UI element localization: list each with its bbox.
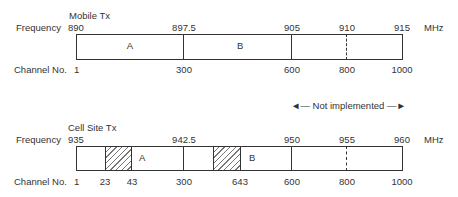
chan-tick: 800 xyxy=(339,64,355,75)
chan-tick: 600 xyxy=(284,176,300,187)
freq-tick: 905 xyxy=(284,22,300,33)
chan-tick: 1000 xyxy=(391,64,412,75)
chan-tick: 800 xyxy=(339,176,355,187)
chan-tick: 1000 xyxy=(391,176,412,187)
freq-tick: 942.5 xyxy=(172,134,196,145)
chan-tick: 600 xyxy=(284,64,300,75)
freq-tick: 950 xyxy=(284,134,300,145)
unit-label: MHz xyxy=(424,22,444,33)
divider xyxy=(291,34,292,60)
hatched-region-b xyxy=(213,147,241,170)
chan-tick: 43 xyxy=(127,176,138,187)
chan-tick: 1 xyxy=(74,176,79,187)
band-b-label: B xyxy=(249,152,255,163)
band-a-label: A xyxy=(139,152,145,163)
divider xyxy=(291,146,292,171)
band-b-label: B xyxy=(237,40,243,51)
hatched-region-a xyxy=(105,147,132,170)
dashed-divider xyxy=(346,146,347,171)
freq-tick: 935 xyxy=(68,134,84,145)
not-implemented-note: ◄— Not implemented —► xyxy=(291,100,406,111)
channel-label: Channel No. xyxy=(14,176,67,187)
frequency-label: Frequency xyxy=(16,22,61,33)
freq-tick: 897.5 xyxy=(172,22,196,33)
chan-tick: 643 xyxy=(232,176,248,187)
freq-tick: 915 xyxy=(394,22,410,33)
frequency-label: Frequency xyxy=(16,134,61,145)
freq-tick: 890 xyxy=(68,22,84,33)
mobile-tx-title: Mobile Tx xyxy=(69,10,110,21)
freq-tick: 910 xyxy=(339,22,355,33)
unit-label: MHz xyxy=(424,134,444,145)
chan-tick: 1 xyxy=(74,64,79,75)
divider xyxy=(183,146,184,171)
channel-label: Channel No. xyxy=(14,64,67,75)
chan-tick: 300 xyxy=(176,176,192,187)
band-a-label: A xyxy=(127,40,133,51)
cell-tx-title: Cell Site Tx xyxy=(68,122,116,133)
chan-tick: 300 xyxy=(176,64,192,75)
freq-tick: 955 xyxy=(339,134,355,145)
divider xyxy=(183,34,184,60)
dashed-divider xyxy=(346,34,347,60)
chan-tick: 23 xyxy=(100,176,111,187)
freq-tick: 960 xyxy=(394,134,410,145)
